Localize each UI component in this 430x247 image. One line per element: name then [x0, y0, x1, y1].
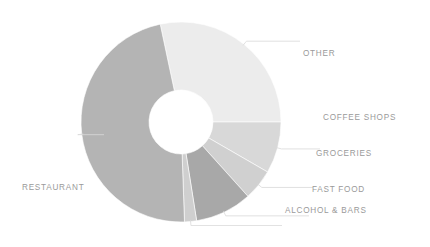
- slice-label-restaurant: RESTAURANT: [22, 184, 84, 192]
- leader-line-other: [243, 41, 300, 45]
- donut-slice-other[interactable]: [160, 22, 281, 122]
- slice-label-groceries: GROCERIES: [316, 150, 372, 158]
- slice-label-alcohol-bars: ALCOHOL & BARS: [285, 207, 367, 215]
- donut-chart-figure: OTHER COFFEE SHOPS GROCERIES FAST FOOD A…: [0, 0, 430, 247]
- slice-label-fast-food: FAST FOOD: [312, 186, 365, 194]
- slice-label-other: OTHER: [303, 50, 335, 58]
- leader-line-coffee-shops: [276, 147, 320, 148]
- leader-line-alcohol-bars: [190, 220, 282, 225]
- slice-label-coffee-shops: COFFEE SHOPS: [323, 114, 396, 122]
- leader-line-groceries: [258, 184, 313, 187]
- donut-slices-group: [81, 22, 281, 222]
